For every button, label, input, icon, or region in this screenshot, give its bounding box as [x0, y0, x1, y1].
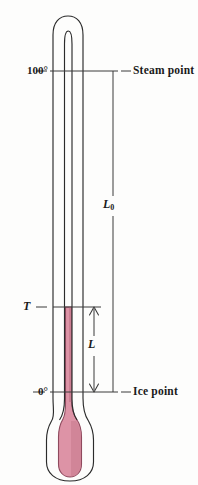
thermometer-figure: 100° 0° Steam point Ice point L0 T L — [0, 0, 198, 485]
length-total-subscript: 0 — [110, 203, 114, 212]
length-total-label: L0 — [103, 198, 114, 212]
ice-point-label: Ice point — [133, 386, 178, 398]
capillary-bore-left — [60, 44, 65, 420]
mercury-shading — [71, 421, 81, 477]
leader-lines-group — [33, 71, 131, 392]
temperature-label: T — [23, 300, 30, 312]
steam-temperature-label: 100° — [4, 65, 48, 76]
length-label: L — [88, 338, 95, 350]
steam-point-label: Steam point — [133, 65, 194, 77]
ice-temperature-label: 0° — [4, 386, 48, 397]
mercury-column-shade — [69, 307, 72, 402]
